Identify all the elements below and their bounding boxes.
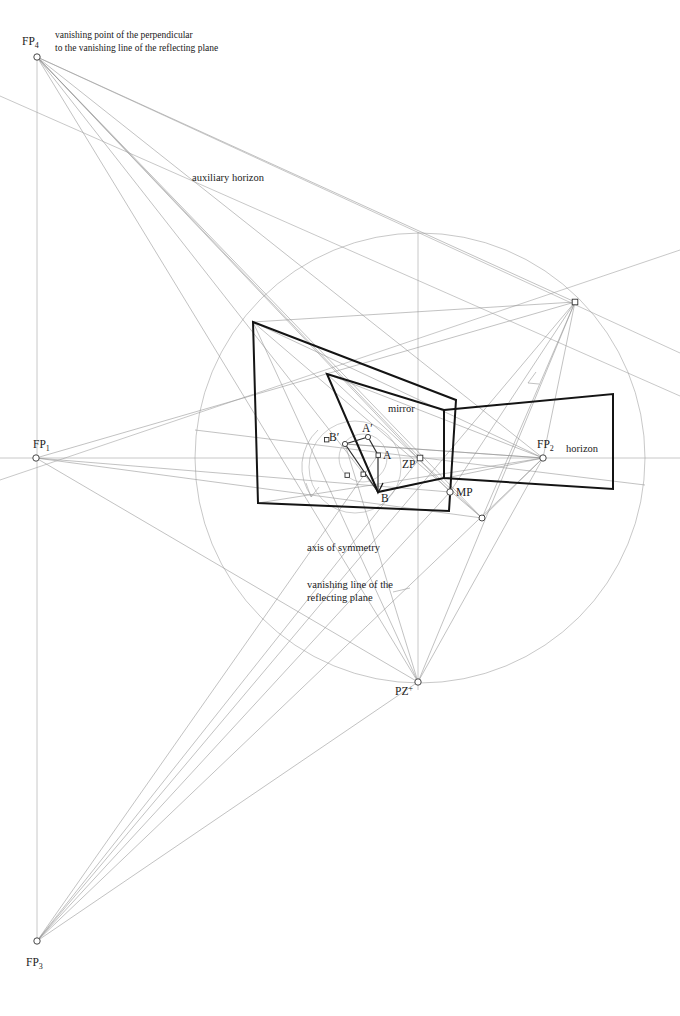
label-axis-of-symmetry: axis of symmetry: [307, 542, 381, 553]
right-trapezoid: [444, 394, 613, 489]
label-vanishing-line-2: reflecting plane: [307, 592, 373, 603]
label-zp: ZP: [402, 458, 415, 470]
fp1-ray-4: [36, 458, 450, 492]
fp3-ray-5: [37, 455, 378, 941]
label-auxiliary-horizon: auxiliary horizon: [192, 172, 265, 183]
label-mirror: mirror: [388, 403, 415, 414]
chord-2: [253, 302, 575, 322]
fp1-ray-2: [36, 458, 418, 682]
zp-marker: [417, 455, 423, 461]
fp2-ray-6: [418, 458, 543, 682]
label-fp3: FP3: [26, 956, 43, 971]
construction-lines: [0, 57, 680, 941]
inner-marker-2: [376, 453, 380, 457]
label-point-a-prime: A′: [362, 422, 373, 434]
pz-ray-1: [418, 302, 575, 682]
label-fp4-description-line2: to the vanishing line of the reflecting …: [55, 43, 218, 53]
rotation-arrow-arc: [302, 430, 318, 497]
fp2-marker: [540, 455, 546, 461]
point-markers: [33, 54, 578, 944]
heavy-outlines: [253, 322, 613, 511]
pz-marker: [415, 679, 421, 685]
fp2-ray-7: [37, 458, 543, 941]
fp4-ray-4: [37, 57, 420, 458]
circle-right-marker: [572, 299, 578, 305]
label-point-b-prime: B′: [329, 431, 339, 443]
label-horizon: horizon: [566, 443, 599, 454]
fp3-ray-3: [37, 682, 418, 941]
inner-marker-3: [345, 473, 349, 477]
chord-5: [253, 322, 482, 518]
fp4-ray-6: [37, 57, 378, 492]
label-vanishing-line-1: vanishing line of the: [307, 579, 393, 590]
mirror-quadrilateral: [327, 374, 444, 492]
aux-marker: [479, 515, 485, 521]
fp2-ray-3: [327, 374, 543, 458]
a-prime-marker: [365, 434, 370, 439]
fp2-ray-8: [543, 302, 575, 458]
fp3-ray-2: [37, 458, 420, 941]
inner-marker-4: [361, 472, 365, 476]
fp3-ray-4: [37, 492, 450, 941]
fp4-ray-1: [37, 57, 575, 302]
label-fp4-description-line1: vanishing point of the perpendicular: [55, 30, 194, 40]
fp4-marker: [34, 54, 40, 60]
fp1-marker: [33, 455, 39, 461]
fp4-ray-2: [37, 57, 543, 458]
fp2-ray-2: [258, 458, 543, 503]
vanishing-line-leader: [393, 588, 410, 592]
label-fp2: FP2: [537, 438, 554, 453]
auxiliary-horizon-line-2: [0, 96, 680, 396]
b-prime-marker: [342, 441, 347, 446]
auxiliary-horizon-line: [37, 57, 680, 353]
label-point-b: B: [381, 492, 389, 504]
fp3-ray-1: [37, 302, 575, 941]
label-fp1: FP1: [33, 438, 50, 453]
fp2-ray-9: [482, 458, 543, 518]
mp-marker: [447, 489, 453, 495]
label-point-a: A: [383, 449, 392, 461]
direction-arrow-marker: [528, 372, 539, 384]
label-fp4: FP4: [22, 35, 39, 50]
label-pz: PZ+: [395, 684, 413, 697]
label-mp: MP: [456, 486, 473, 498]
fp3-marker: [34, 938, 40, 944]
fp1-ray-1: [36, 302, 575, 458]
perspective-diagram: FP4 vanishing point of the perpendicular…: [0, 0, 680, 1016]
